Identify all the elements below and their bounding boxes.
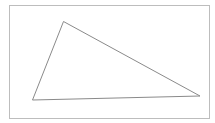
diagram-canvas (0, 0, 215, 123)
diagram-frame (10, 6, 210, 119)
triangle-shape (33, 22, 201, 101)
